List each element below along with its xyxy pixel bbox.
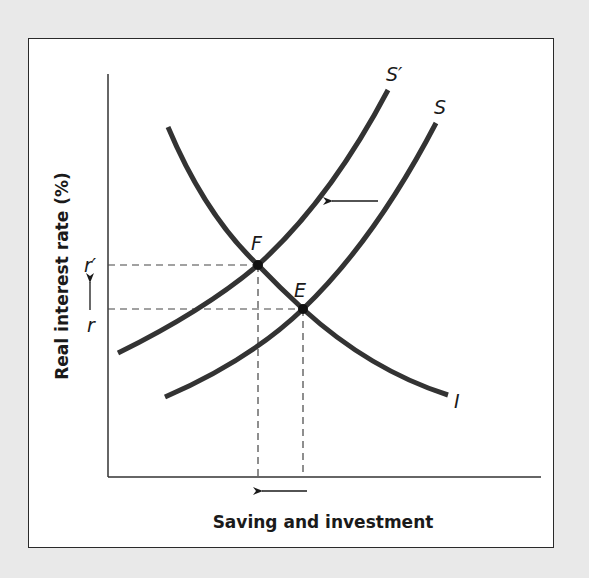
- tick-r: r: [87, 314, 96, 336]
- label-i: I: [454, 390, 460, 412]
- label-s: S: [434, 96, 446, 118]
- label-e: E: [294, 279, 306, 301]
- y-axis-title: Real interest rate (%): [52, 172, 72, 380]
- curve-i: [168, 127, 448, 395]
- label-f: F: [251, 232, 263, 254]
- point-e: [298, 304, 308, 314]
- point-f: [253, 260, 263, 270]
- tick-r-prime: r′: [84, 254, 97, 276]
- x-axis-title: Saving and investment: [213, 512, 434, 532]
- label-s-prime: S′: [386, 63, 403, 85]
- saving-investment-chart: S′ S I F E r′ r Saving and investment Re…: [0, 0, 589, 578]
- dashed-guides: [108, 265, 303, 477]
- curve-s: [165, 123, 436, 397]
- curve-s-prime: [118, 90, 388, 353]
